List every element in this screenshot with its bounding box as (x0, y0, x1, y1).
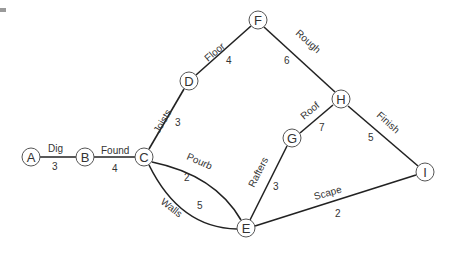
node-a: A (22, 148, 40, 166)
node-label-e: E (242, 221, 251, 236)
node-label-g: G (287, 131, 297, 146)
node-label-h: H (336, 92, 345, 107)
edge-label-floor: Floor (202, 40, 227, 64)
node-h: H (332, 90, 350, 108)
node-label-a: A (27, 150, 36, 165)
edge-label-joists: Joists (151, 107, 173, 135)
node-label-b: B (81, 150, 90, 165)
edge-weight-floor: 4 (226, 55, 232, 66)
edge-weight-rough: 6 (284, 55, 290, 66)
network-diagram: Dig 3 Found 4 Joists 3 Floor 4 Rough 6 R… (0, 0, 456, 253)
edge-weight-roof: 7 (319, 122, 325, 133)
edge-label-walls: Walls (159, 196, 185, 219)
node-g: G (283, 129, 301, 147)
node-i: I (416, 163, 434, 181)
edge-label-rough: Rough (294, 27, 323, 55)
edge-weight-scape: 2 (335, 208, 341, 219)
edge-label-dig: Dig (48, 143, 63, 154)
edge-weight-found: 4 (112, 163, 118, 174)
node-d: D (180, 72, 198, 90)
node-f: F (249, 11, 267, 29)
edge-weight-dig: 3 (52, 161, 58, 172)
edge-label-rafters: Rafters (246, 155, 270, 189)
edge-weight-finish: 5 (368, 132, 374, 143)
edge-weight-walls: 5 (197, 200, 203, 211)
node-b: B (76, 148, 94, 166)
node-label-d: D (184, 74, 193, 89)
node-c: C (135, 148, 153, 166)
edge-labels: Dig 3 Found 4 Joists 3 Floor 4 Rough 6 R… (48, 27, 402, 219)
node-label-f: F (254, 13, 262, 28)
edge-weight-joists: 3 (175, 117, 181, 128)
edge-weight-pourb: 2 (184, 172, 190, 183)
node-label-c: C (139, 150, 148, 165)
edge-weight-rafters: 3 (273, 181, 279, 192)
edge-label-found: Found (101, 145, 129, 156)
node-e: E (237, 219, 255, 237)
edge-label-pourb: Pourb (185, 151, 214, 172)
node-label-i: I (423, 165, 427, 180)
